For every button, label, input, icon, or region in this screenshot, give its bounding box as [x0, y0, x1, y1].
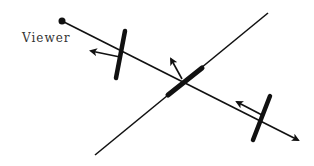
viewer-ray-arrow: [62, 21, 298, 140]
mirror-bar: [116, 31, 125, 78]
normal-arrow-icon: [237, 102, 262, 115]
diagram-canvas: Viewer: [0, 0, 314, 166]
viewer-point-icon: [59, 18, 66, 25]
viewer-label: Viewer: [22, 31, 71, 45]
normal-arrow-icon: [91, 51, 120, 57]
mirror-bar: [168, 68, 202, 95]
